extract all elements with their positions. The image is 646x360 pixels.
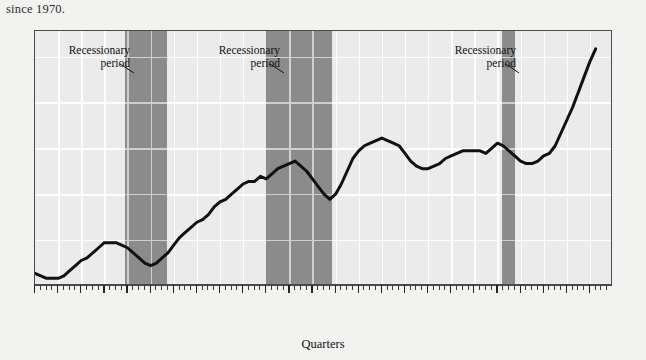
x-axis-quarter-tick (248, 285, 249, 290)
annotation-recessionary-period-3: Recessionary period (432, 44, 516, 70)
x-axis-quarter-tick (63, 285, 64, 290)
x-axis-year-tick (520, 285, 521, 293)
x-axis-quarter-tick (392, 285, 393, 290)
x-axis-quarter-tick (138, 285, 139, 290)
x-axis-quarter-tick (121, 285, 122, 290)
x-axis-year-tick (126, 285, 127, 293)
x-axis-quarter-tick (340, 285, 341, 290)
x-axis-year-tick (103, 285, 104, 293)
x-axis-year-tick (496, 285, 497, 293)
x-axis-quarter-tick (51, 285, 52, 290)
x-axis-quarter-tick (271, 285, 272, 290)
annotation-line1: Recessionary (455, 44, 516, 56)
annotation-recessionary-period-1: Recessionary period (46, 44, 130, 70)
annotation-line2: period (196, 57, 280, 70)
x-axis-quarter-tick (433, 285, 434, 290)
x-axis-quarter-tick (323, 285, 324, 290)
x-axis-quarter-tick (167, 285, 168, 290)
x-axis-quarter-tick (410, 285, 411, 290)
x-axis-quarter-tick (144, 285, 145, 290)
x-axis-quarter-tick (595, 285, 596, 290)
x-axis-quarter-tick (572, 285, 573, 290)
x-axis-year-tick (589, 285, 590, 293)
x-axis-year-tick (543, 285, 544, 293)
x-axis-year-tick (265, 285, 266, 293)
x-axis-quarter-tick (161, 285, 162, 290)
x-axis-quarter-tick (283, 285, 284, 290)
x-axis-quarter-tick (329, 285, 330, 290)
x-axis-quarter-tick (462, 285, 463, 290)
annotation-line2: period (46, 57, 130, 70)
annotation-line1: Recessionary (69, 44, 130, 56)
x-axis-year-tick (57, 285, 58, 293)
x-axis-year-tick (427, 285, 428, 293)
x-axis-quarter-tick (485, 285, 486, 290)
page-caption: since 1970. (6, 2, 65, 17)
x-axis-quarter-tick (92, 285, 93, 290)
x-axis-quarter-tick (346, 285, 347, 290)
x-axis-quarter-tick (179, 285, 180, 290)
x-axis-quarter-tick (254, 285, 255, 290)
x-axis-quarter-tick (352, 285, 353, 290)
annotation-line1: Recessionary (219, 44, 280, 56)
x-axis-year-tick (196, 285, 197, 293)
x-axis-quarter-tick (155, 285, 156, 290)
x-axis-quarter-tick (606, 285, 607, 290)
x-axis-year-tick (473, 285, 474, 293)
x-axis-quarter-tick (259, 285, 260, 290)
x-axis-year-tick (335, 285, 336, 293)
x-axis-quarter-tick (74, 285, 75, 290)
x-axis-quarter-tick (560, 285, 561, 290)
x-axis-quarter-tick (236, 285, 237, 290)
x-axis-quarter-tick (109, 285, 110, 290)
x-axis-quarter-tick (317, 285, 318, 290)
x-axis-year-tick (242, 285, 243, 293)
data-series-line (35, 49, 596, 279)
x-axis-quarter-tick (537, 285, 538, 290)
x-axis-year-tick (80, 285, 81, 293)
x-axis-quarter-tick (421, 285, 422, 290)
x-axis-quarter-tick (207, 285, 208, 290)
x-axis-year-tick (311, 285, 312, 293)
x-axis-year-tick (566, 285, 567, 293)
x-axis-quarter-tick (491, 285, 492, 290)
x-axis-quarter-tick (439, 285, 440, 290)
x-axis-quarter-tick (213, 285, 214, 290)
x-axis-quarter-tick (444, 285, 445, 290)
x-axis-quarter-tick (554, 285, 555, 290)
x-axis-quarter-tick (231, 285, 232, 290)
x-axis-year-tick (288, 285, 289, 293)
x-axis-quarter-tick (456, 285, 457, 290)
x-axis-quarter-tick (40, 285, 41, 290)
x-axis-quarter-tick (531, 285, 532, 290)
x-axis-quarter-tick (387, 285, 388, 290)
x-axis-quarter-tick (502, 285, 503, 290)
x-axis-quarter-tick (184, 285, 185, 290)
x-axis-year-tick (381, 285, 382, 293)
x-axis-title: Quarters (0, 337, 646, 352)
x-axis-year-tick (450, 285, 451, 293)
x-axis-quarter-tick (98, 285, 99, 290)
x-axis-quarter-tick (548, 285, 549, 290)
annotation-recessionary-period-2: Recessionary period (196, 44, 280, 70)
x-axis-quarter-tick (600, 285, 601, 290)
x-axis-year-tick (404, 285, 405, 293)
x-axis-quarter-tick (415, 285, 416, 290)
x-axis-quarter-tick (46, 285, 47, 290)
x-axis-year-tick (219, 285, 220, 293)
x-axis-quarter-tick (225, 285, 226, 290)
x-axis-quarter-tick (202, 285, 203, 290)
x-axis-quarter-tick (583, 285, 584, 290)
x-axis-quarter-tick (132, 285, 133, 290)
x-axis-quarter-tick (577, 285, 578, 290)
x-axis-year-tick (150, 285, 151, 293)
x-axis-quarter-tick (86, 285, 87, 290)
x-axis-quarter-tick (514, 285, 515, 290)
x-axis-quarter-tick (398, 285, 399, 290)
x-axis-quarter-tick (369, 285, 370, 290)
x-axis-quarter-tick (306, 285, 307, 290)
x-axis-ticks (34, 285, 612, 294)
x-axis-quarter-tick (277, 285, 278, 290)
x-axis-quarter-tick (375, 285, 376, 290)
x-axis-quarter-tick (363, 285, 364, 290)
